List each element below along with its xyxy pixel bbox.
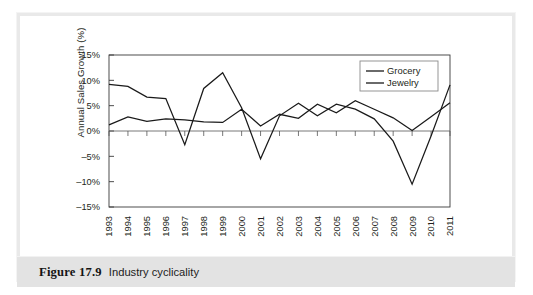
x-axis-tick-label: 1997 bbox=[180, 216, 190, 237]
x-axis-tick-label: 2000 bbox=[237, 216, 247, 237]
x-axis-tick-label: 2001 bbox=[256, 216, 266, 237]
x-axis-tick-label: 1995 bbox=[142, 216, 152, 237]
x-axis-tick-label: 1993 bbox=[104, 216, 114, 237]
caption-title: Industry cyclicality bbox=[109, 266, 199, 278]
chart-area: Annual Sales Growth (%) 15%10%5%0%–5%–10… bbox=[25, 22, 495, 237]
x-axis-tick-label: 2008 bbox=[389, 216, 399, 237]
y-axis-title: Annual Sales Growth (%) bbox=[75, 0, 86, 168]
line-chart: 15%10%5%0%–5%–10%–15%1993199419951996199… bbox=[25, 22, 495, 237]
y-axis-tick-label: –15% bbox=[76, 202, 100, 212]
x-axis-tick-label: 1994 bbox=[123, 216, 133, 237]
x-axis-tick-label: 1999 bbox=[218, 216, 228, 237]
figure-panel: Annual Sales Growth (%) 15%10%5%0%–5%–10… bbox=[17, 13, 515, 281]
x-axis-tick-label: 2010 bbox=[426, 216, 436, 237]
x-axis-tick-label: 2005 bbox=[332, 216, 342, 237]
x-axis-tick-label: 2011 bbox=[445, 216, 455, 236]
x-axis-tick-label: 1998 bbox=[199, 216, 209, 237]
x-axis-tick-label: 2004 bbox=[313, 216, 323, 237]
x-axis-tick-label: 2009 bbox=[408, 216, 418, 237]
y-axis-tick-label: 5% bbox=[87, 101, 100, 111]
legend-label-grocery: Grocery bbox=[387, 65, 421, 76]
figure-page: Annual Sales Growth (%) 15%10%5%0%–5%–10… bbox=[0, 0, 533, 295]
x-axis-tick-label: 2006 bbox=[351, 216, 361, 237]
x-axis-tick-label: 1996 bbox=[161, 216, 171, 237]
x-axis-tick-label: 2007 bbox=[370, 216, 380, 237]
y-axis-tick-label: 0% bbox=[87, 126, 100, 136]
x-axis-tick-label: 2002 bbox=[275, 216, 285, 237]
figure-caption: Figure 17.9 Industry cyclicality bbox=[17, 256, 515, 287]
caption-number: Figure 17.9 bbox=[39, 265, 102, 280]
legend-label-jewelry: Jewelry bbox=[387, 77, 419, 88]
y-axis-tick-label: –10% bbox=[76, 177, 100, 187]
x-axis-tick-label: 2003 bbox=[294, 216, 304, 237]
